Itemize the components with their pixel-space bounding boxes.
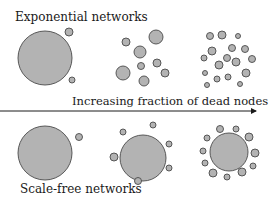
exponential-network-nodes [18, 28, 256, 88]
network-node [209, 169, 217, 177]
network-node [224, 55, 231, 62]
network-node [69, 77, 75, 83]
hub-node [120, 135, 166, 181]
network-node [200, 148, 206, 154]
network-node [166, 141, 172, 147]
scale-free-network-nodes [18, 122, 259, 185]
network-node [217, 126, 224, 133]
network-node [139, 76, 149, 86]
network-node [238, 168, 246, 176]
network-node [207, 33, 214, 40]
exponential-stage-2 [116, 30, 169, 86]
network-node [138, 63, 145, 70]
network-node [116, 66, 130, 80]
network-node [224, 174, 230, 180]
exponential-stage-3 [201, 31, 256, 88]
hub-node [18, 126, 72, 180]
arrow-label: Increasing fraction of dead nodes [72, 96, 268, 108]
network-node [153, 59, 161, 67]
network-node [202, 160, 208, 166]
exponential-networks-title: Exponential networks [15, 11, 148, 23]
network-node [205, 83, 210, 88]
scale-free-stage-2 [110, 122, 172, 185]
network-node [208, 47, 216, 55]
network-node [225, 74, 231, 80]
network-node [242, 69, 250, 77]
network-node [215, 61, 223, 69]
hub-node [18, 31, 72, 85]
network-node [236, 34, 241, 39]
network-node [201, 55, 207, 61]
network-node [204, 135, 210, 141]
network-node [65, 28, 73, 36]
network-node [245, 133, 253, 141]
network-node [110, 153, 118, 161]
network-node [214, 76, 220, 82]
network-node [161, 69, 169, 77]
network-node [203, 71, 208, 76]
network-node [150, 122, 156, 128]
network-node [134, 46, 146, 58]
network-node [76, 134, 83, 141]
network-node [218, 31, 226, 39]
network-node [233, 126, 239, 132]
scale-free-networks-title: Scale-free networks [20, 183, 142, 195]
scale-free-stage-1 [18, 126, 83, 180]
network-node [250, 163, 256, 169]
network-node [149, 30, 163, 44]
network-node [166, 165, 172, 171]
hub-node [210, 133, 248, 171]
network-node [229, 45, 236, 52]
network-node [249, 56, 256, 63]
network-node [238, 82, 243, 87]
network-node [122, 38, 130, 46]
network-node [232, 58, 240, 66]
network-node [120, 129, 126, 135]
exponential-stage-1 [18, 28, 75, 85]
scale-free-stage-3 [200, 126, 259, 181]
network-node [242, 46, 249, 53]
network-node [251, 149, 259, 157]
